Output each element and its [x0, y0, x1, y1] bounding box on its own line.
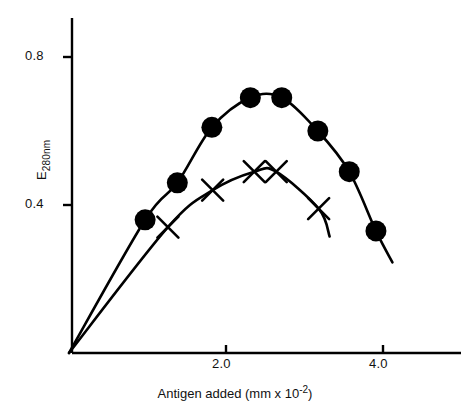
data-point-filled-circle: [365, 220, 386, 241]
data-point-cross: [157, 217, 178, 238]
data-point-filled-circle: [201, 117, 222, 138]
filled-circle-series-curve: [69, 94, 392, 353]
data-point-filled-circle: [240, 87, 261, 108]
data-point-filled-circle: [307, 121, 328, 142]
data-point-filled-circle: [271, 87, 292, 108]
x-axis-label-tail: ): [308, 386, 312, 401]
x-axis-tick-label-mid: 2.0: [212, 356, 231, 371]
data-point-filled-circle: [135, 209, 156, 230]
data-point-cross: [308, 198, 329, 219]
data-point-cross: [244, 161, 265, 182]
data-point-filled-circle: [339, 161, 360, 182]
x-axis-label-exponent: -2: [299, 384, 308, 395]
y-axis-label-subscript: 280nm: [41, 140, 52, 172]
x-axis-label: Antigen added (mm x 10-2): [0, 384, 470, 401]
y-axis-label-prefix: E: [34, 171, 49, 180]
chart-figure: 0.8 0.4 2.0 4.0 E280nm Antigen added (mm…: [0, 0, 470, 417]
plot-area: [0, 0, 470, 417]
data-point-cross: [202, 180, 223, 201]
cross-series-curve: [69, 168, 330, 353]
data-point-cross: [266, 161, 287, 182]
series-cross: [69, 161, 330, 353]
y-axis-label-wrapper: E280nm: [32, 100, 52, 220]
series-filled-circle: [69, 87, 392, 353]
x-axis-label-text: Antigen added (mm x 10: [158, 386, 300, 401]
x-axis-tick-label-high: 4.0: [369, 356, 388, 371]
data-point-filled-circle: [167, 172, 188, 193]
axes: [63, 18, 461, 353]
y-axis-label: E280nm: [34, 140, 49, 180]
y-axis-tick-label-high: 0.8: [25, 48, 44, 63]
